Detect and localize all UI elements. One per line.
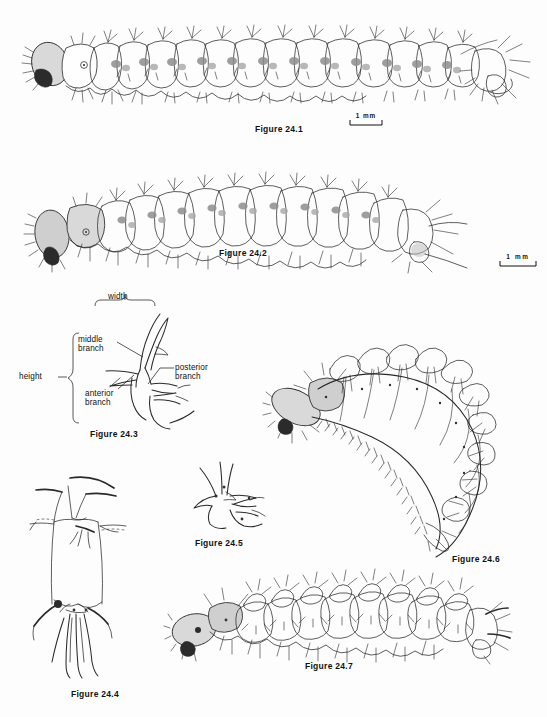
- anterior-branch-leader: [116, 375, 136, 391]
- figure-24-1: [20, 18, 540, 118]
- figure-24-1-drawing: [20, 18, 540, 118]
- figure-24-7-caption: Figure 24.7: [305, 661, 353, 671]
- figure-24-5: [186, 462, 272, 530]
- anterior-branch-label-line2: branch: [85, 398, 111, 407]
- width-label: width: [108, 292, 128, 301]
- figure-24-7: [168, 578, 512, 666]
- anterior-branch-label: anterior branch: [85, 389, 114, 408]
- figure-24-4-caption: Figure 24.4: [71, 689, 119, 699]
- scale-bar-1-rule: [348, 119, 384, 126]
- middle-branch-label-line1: middle: [78, 335, 103, 344]
- figure-24-6-caption: Figure 24.6: [452, 554, 500, 564]
- middle-branch-label-line2: branch: [78, 344, 104, 353]
- figure-24-1-caption: Figure 24.1: [255, 124, 303, 134]
- figure-24-2-drawing: [22, 170, 472, 275]
- figure-24-4-drawing: [28, 468, 138, 680]
- figure-24-5-drawing: [186, 462, 272, 530]
- figure-24-3-caption: Figure 24.3: [90, 429, 138, 439]
- figure-24-6: [266, 325, 510, 551]
- figure-24-2-caption: Figure 24.2: [219, 248, 267, 258]
- figure-24-6-drawing: [266, 325, 510, 551]
- middle-branch-label: middle branch: [78, 335, 104, 354]
- posterior-branch-label: posterior branch: [175, 363, 208, 382]
- scale-bar-2-label: 1 mm: [498, 253, 538, 260]
- illustration-plate: Figure 24.1 1 mm: [0, 0, 547, 717]
- scale-bar-1-label: 1 mm: [348, 112, 384, 119]
- figure-24-2: [22, 170, 472, 275]
- height-label: height: [19, 372, 42, 381]
- scale-bar-2: 1 mm: [498, 253, 538, 267]
- scale-bar-2-rule: [498, 260, 538, 267]
- scale-bar-1: 1 mm: [348, 112, 384, 126]
- posterior-branch-label-line2: branch: [175, 372, 201, 381]
- posterior-branch-label-line1: posterior: [175, 363, 208, 372]
- anterior-branch-label-line1: anterior: [85, 389, 114, 398]
- figure-24-5-caption: Figure 24.5: [195, 538, 243, 548]
- posterior-branch-leader: [146, 366, 176, 388]
- height-tick: [58, 374, 68, 380]
- figure-24-4: [28, 468, 138, 680]
- middle-branch-leader: [117, 340, 145, 360]
- figure-24-7-drawing: [168, 578, 512, 666]
